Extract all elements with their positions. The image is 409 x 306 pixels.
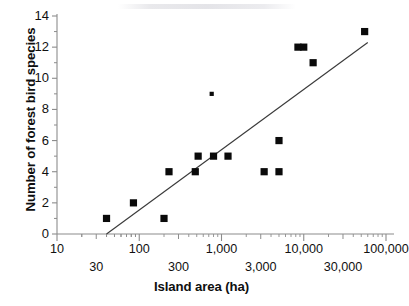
x-tick-label-lower: 30 xyxy=(89,260,103,274)
data-point-marker xyxy=(195,153,202,160)
data-point-marker xyxy=(275,137,282,144)
y-tick-label: 12 xyxy=(15,39,49,54)
x-axis-title: Island area (ha) xyxy=(0,279,403,294)
data-point-marker xyxy=(310,59,317,66)
trend-line xyxy=(107,42,368,234)
data-point-marker xyxy=(261,168,268,175)
y-tick-label: 4 xyxy=(15,164,49,179)
data-point-marker xyxy=(275,168,282,175)
x-tick-label-lower: 300 xyxy=(168,260,189,274)
y-tick-label: 0 xyxy=(15,226,49,241)
data-point-marker xyxy=(361,28,368,35)
data-point-marker xyxy=(300,44,307,51)
data-point-marker xyxy=(160,215,167,222)
x-tick-label-upper: 10 xyxy=(50,242,64,256)
y-tick-label: 8 xyxy=(15,101,49,116)
y-tick-label: 6 xyxy=(15,133,49,148)
data-point-marker xyxy=(130,199,137,206)
data-point-marker xyxy=(210,153,217,160)
x-tick-label-lower: 3,000 xyxy=(245,260,277,274)
x-tick-label-upper: 100 xyxy=(129,242,150,256)
y-tick-label: 10 xyxy=(15,70,49,85)
data-point-marker xyxy=(224,153,231,160)
x-tick-label-upper: 1,000 xyxy=(206,242,238,256)
data-point-marker xyxy=(165,168,172,175)
y-tick-label: 2 xyxy=(15,195,49,210)
x-tick-label-lower: 30,000 xyxy=(324,260,363,274)
x-tick-label-upper: 100,000 xyxy=(363,242,409,256)
y-tick-label: 14 xyxy=(15,8,49,23)
data-point-marker xyxy=(210,92,214,96)
data-point-marker xyxy=(192,168,199,175)
x-tick-label-upper: 10,000 xyxy=(284,242,323,256)
data-point-marker xyxy=(103,215,110,222)
